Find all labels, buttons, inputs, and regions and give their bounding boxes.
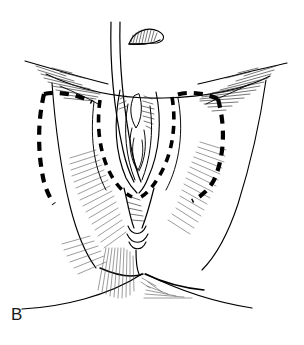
panel-label: B — [11, 305, 23, 325]
surgical-illustration — [0, 0, 304, 345]
figure-panel: B — [0, 0, 304, 345]
canvas-background — [0, 0, 304, 345]
